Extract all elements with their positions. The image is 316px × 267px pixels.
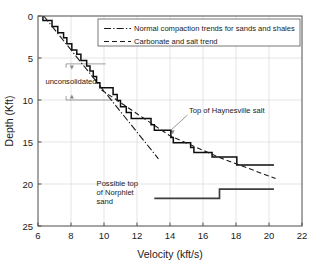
chart-legend[interactable]: Normal compaction trends for sands and s… — [98, 19, 300, 46]
norphlet-label-line: Possible top — [97, 179, 138, 188]
velocity-depth-chart: unconsolidatedTop of Haynesville saltPos… — [0, 0, 316, 267]
legend-label-1[interactable]: Carbonate and salt trend — [134, 37, 218, 46]
y-tick-label: 15 — [22, 137, 33, 148]
x-axis-title: Velocity (kft/s) — [137, 248, 202, 260]
x-tick-label: 16 — [198, 230, 209, 241]
x-tick-label: 12 — [132, 230, 143, 241]
x-tick-label: 8 — [68, 230, 73, 241]
unconsolidated-label: unconsolidated — [45, 77, 96, 86]
y-tick-label: 20 — [22, 179, 33, 190]
y-axis-title: Depth (Kft) — [3, 96, 15, 147]
haynesville-salt-label: Top of Haynesville salt — [189, 106, 265, 115]
chart-canvas: unconsolidatedTop of Haynesville saltPos… — [0, 0, 316, 267]
x-tick-label: 18 — [231, 230, 242, 241]
x-tick-label: 10 — [99, 230, 110, 241]
x-tick-label: 6 — [35, 230, 40, 241]
norphlet-label-line: sand — [97, 197, 113, 206]
norphlet-label-line: of Norphlet — [97, 188, 135, 197]
y-tick-label: 25 — [22, 221, 33, 232]
y-tick-label: 0 — [28, 11, 33, 22]
x-tick-label: 22 — [297, 230, 308, 241]
x-tick-label: 14 — [165, 230, 176, 241]
x-tick-label: 20 — [264, 230, 275, 241]
y-tick-label: 5 — [28, 53, 33, 64]
legend-label-0[interactable]: Normal compaction trends for sands and s… — [134, 24, 295, 33]
y-tick-label: 10 — [22, 95, 33, 106]
